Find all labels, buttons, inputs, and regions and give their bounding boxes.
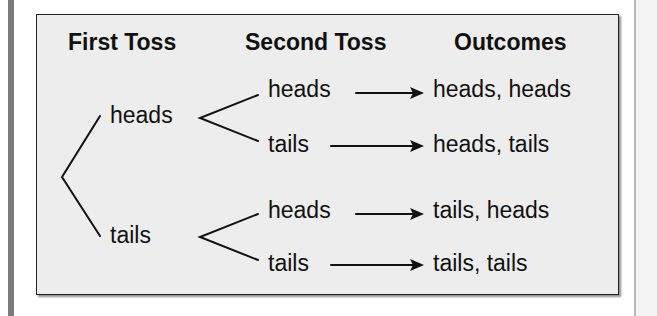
- tails-branch-lines: [200, 214, 258, 260]
- tree-branches: [0, 0, 657, 316]
- heads-branch-lines: [200, 95, 258, 141]
- root-branch-lines: [62, 116, 100, 236]
